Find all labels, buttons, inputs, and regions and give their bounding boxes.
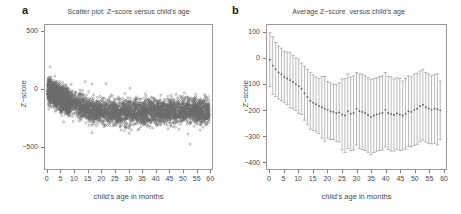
x-tick-mark [357,170,358,173]
x-tick-mark [269,170,270,173]
x-tick-mark [156,170,157,173]
panel-a-letter: a [22,5,28,16]
x-tick-mark [429,170,430,173]
x-tick-mark [60,170,61,173]
y-tick-label: 0 [232,54,260,61]
panel-b-y-axis-label: Z−score [242,64,250,124]
x-tick-mark [47,170,48,173]
y-tick-mark [263,58,266,59]
panel-b-letter: b [232,5,239,16]
x-tick-mark [129,170,130,173]
x-tick-mark [142,170,143,173]
x-tick-mark [386,170,387,173]
panel-a-title: Scatter plot: Z−score versus child's age [44,8,213,15]
x-tick-mark [197,170,198,173]
y-tick-mark [263,162,266,163]
y-tick-mark [41,89,44,90]
x-tick-label: 60 [434,175,454,182]
x-tick-mark [284,170,285,173]
y-tick-mark [263,136,266,137]
y-tick-label: −300 [232,133,260,140]
x-tick-mark [400,170,401,173]
y-tick-label: 500 [10,27,38,34]
x-tick-mark [88,170,89,173]
panel-a-scatter-points [45,25,212,169]
x-tick-mark [415,170,416,173]
x-tick-mark [371,170,372,173]
x-tick-mark [313,170,314,173]
y-tick-label: −500 [10,143,38,150]
x-tick-mark [101,170,102,173]
y-tick-mark [41,31,44,32]
figure-container: a Scatter plot: Z−score versus child's a… [0,0,461,214]
panel-a-x-axis-label: child's age in months [44,193,213,201]
panel-a-plot-area [44,24,213,170]
y-tick-label: −400 [232,159,260,166]
panel-b-plot-area [266,24,447,170]
x-tick-mark [115,170,116,173]
y-tick-mark [41,147,44,148]
x-tick-mark [183,170,184,173]
x-tick-mark [327,170,328,173]
x-tick-mark [169,170,170,173]
panel-a-y-axis-label: Z−score [20,64,28,124]
panel-b-errorbar-series [267,25,446,169]
x-tick-label: 60 [200,175,220,182]
panel-b-x-axis-label: child's age in months [266,193,447,201]
y-tick-label: 100 [232,28,260,35]
y-tick-mark [263,32,266,33]
x-tick-mark [298,170,299,173]
y-tick-mark [263,84,266,85]
panel-b-errorbars: b Average Z−score versus child's age 100… [230,0,461,214]
x-tick-mark [210,170,211,173]
x-tick-mark [74,170,75,173]
x-tick-mark [342,170,343,173]
y-tick-mark [263,110,266,111]
x-tick-mark [444,170,445,173]
panel-a-scatter: a Scatter plot: Z−score versus child's a… [0,0,231,214]
panel-b-title: Average Z−score versus child's age [250,8,447,15]
